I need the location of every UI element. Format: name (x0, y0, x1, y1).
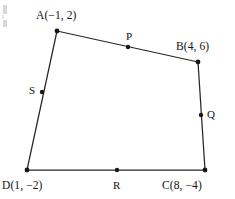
quadrilateral-svg (0, 0, 235, 199)
midpoint-dot-q (199, 113, 203, 117)
midpoint-dot-p (126, 45, 130, 49)
vertex-label-b: B(4, 6) (176, 41, 209, 53)
vertex-label-a: A(−1, 2) (36, 10, 77, 22)
midpoint-label-r: R (113, 180, 120, 191)
vertex-label-d: D(1, −2) (2, 180, 43, 192)
midpoint-label-p: P (126, 31, 132, 42)
vertex-dot-d (25, 168, 30, 173)
vertex-dot-a (55, 29, 60, 34)
vertex-dot-c (203, 168, 208, 173)
midpoint-label-q: Q (207, 109, 215, 120)
vertex-dot-b (196, 60, 201, 65)
midpoint-dot-s (40, 90, 44, 94)
vertex-label-c: C(8, −4) (162, 180, 202, 192)
midpoint-label-s: S (29, 85, 35, 96)
midpoint-dot-r (115, 168, 119, 172)
geometry-figure: A(−1, 2) B(4, 6) C(8, −4) D(1, −2) P Q R… (0, 0, 235, 199)
